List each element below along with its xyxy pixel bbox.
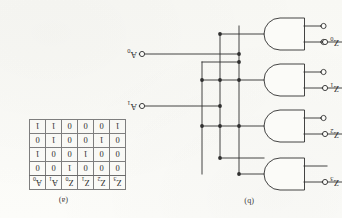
cell-z0: 0: [62, 120, 78, 134]
junction-dot: [237, 78, 241, 82]
table-row: 0 1 0 0 1 0: [30, 134, 126, 148]
cell-z2: 0: [94, 148, 110, 162]
circuit-output-label-a1: A1: [127, 100, 137, 112]
junction-dot: [218, 156, 222, 160]
terminal-z1-icon: [322, 85, 327, 90]
cell-z1: 0: [78, 120, 94, 134]
cell-a1: 0: [46, 162, 62, 176]
gate-3-input-bubble-icon: [321, 69, 326, 74]
junction-dot: [200, 124, 204, 128]
terminal-z0-icon: [322, 39, 327, 44]
junction-dot: [218, 32, 222, 36]
caption-table: (a): [59, 196, 68, 205]
terminal-z2-icon: [322, 131, 327, 136]
junction-dot: [237, 52, 241, 56]
cell-a0: 1: [30, 120, 46, 134]
table-header-row: Z3 Z2 Z1 Z0 A1 A0: [30, 176, 126, 190]
cell-z3: 0: [110, 162, 126, 176]
gate-1-and-shape: [264, 158, 304, 190]
cell-z0: 1: [62, 162, 78, 176]
terminal-z3-icon: [322, 179, 327, 184]
cell-a1: 1: [46, 120, 62, 134]
col-header-a1: A1: [46, 176, 62, 190]
gate-4-input-b-bubble-icon: [321, 23, 326, 28]
circuit-input-label-z3: Z3: [330, 176, 339, 188]
table-row: 0 0 0 1 0 0: [30, 162, 126, 176]
col-header-z1: Z1: [78, 176, 94, 190]
junction-dot: [237, 60, 241, 64]
truth-table: Z3 Z2 Z1 Z0 A1 A0 0 0 0 1 0 0 0 0 1 0: [29, 119, 126, 190]
cell-z3: 0: [110, 148, 126, 162]
table-row: 1 0 0 0 1 1: [30, 120, 126, 134]
cell-z1: 0: [78, 162, 94, 176]
col-header-z2: Z2: [94, 176, 110, 190]
table-row: 0 0 1 0 0 1: [30, 148, 126, 162]
junction-dot: [218, 78, 222, 82]
cell-z1: 0: [78, 134, 94, 148]
gate-3-and-shape: [264, 64, 304, 96]
gate-2-input-bubble-icon: [321, 115, 326, 120]
caption-circuit: (b): [244, 197, 254, 206]
col-header-z0: Z0: [62, 176, 78, 190]
cell-a0: 0: [30, 162, 46, 176]
col-header-a0: A0: [30, 176, 46, 190]
figure-page: Z3 Z2 Z1 Z0 A1 A0 (b) (a) Z3 Z2 Z1 Z0 A1…: [0, 0, 342, 218]
junction-dot: [218, 104, 222, 108]
cell-a1: 1: [46, 134, 62, 148]
cell-a1: 0: [46, 148, 62, 162]
gate-4-and-shape: [264, 18, 304, 50]
junction-dot: [237, 124, 241, 128]
cell-z0: 0: [62, 148, 78, 162]
terminal-a1-icon: [139, 103, 144, 108]
cell-a0: 0: [30, 134, 46, 148]
cell-z1: 1: [78, 148, 94, 162]
gate-2-and-shape: [264, 110, 304, 142]
cell-z3: 1: [110, 120, 126, 134]
junction-dot: [200, 78, 204, 82]
circuit-input-label-z0: Z0: [330, 36, 339, 48]
cell-z2: 1: [94, 134, 110, 148]
col-header-z3: Z3: [110, 176, 126, 190]
cell-z2: 0: [94, 162, 110, 176]
circuit-input-label-z2: Z2: [330, 128, 339, 140]
junction-dot: [218, 124, 222, 128]
terminal-a0-icon: [139, 51, 144, 56]
cell-a0: 1: [30, 148, 46, 162]
circuit-input-label-z1: Z1: [330, 82, 339, 94]
circuit-output-label-a0: A0: [127, 48, 137, 60]
cell-z0: 0: [62, 134, 78, 148]
junction-dot: [237, 172, 241, 176]
cell-z3: 0: [110, 134, 126, 148]
cell-z2: 0: [94, 120, 110, 134]
